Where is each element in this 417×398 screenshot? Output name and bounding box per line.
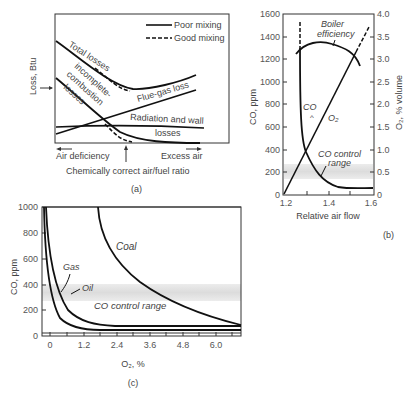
figure: Poor mixing Good mixing Total losses inc… (0, 0, 417, 398)
svg-text:3.0: 3.0 (377, 54, 390, 64)
o2-extrapolation (356, 27, 369, 52)
svg-text:^: ^ (310, 113, 314, 122)
co-control-range-label: CO control range (94, 300, 166, 311)
svg-text:2.4: 2.4 (111, 340, 124, 350)
co-label: CO (303, 102, 317, 112)
svg-text:1000: 1000 (18, 202, 38, 212)
svg-text:600: 600 (265, 122, 280, 132)
svg-text:1000: 1000 (260, 77, 280, 87)
svg-text:4.8: 4.8 (177, 340, 190, 350)
panel-c-caption: (c) (128, 378, 139, 388)
panel-c: 0 200 400 600 800 1000 0 1.2 2.4 3.6 4.8… (9, 202, 241, 388)
y-arrow-head (49, 86, 53, 90)
svg-text:1.5: 1.5 (377, 122, 390, 132)
co-control-label-2: range (328, 158, 351, 168)
stoichiometric-label: Chemically correct air/fuel ratio (66, 166, 190, 176)
legend-good-label: Good mixing (174, 33, 225, 43)
gas-label: Gas (63, 262, 80, 272)
svg-text:600: 600 (23, 254, 38, 264)
radiation-label-2: losses (155, 128, 181, 138)
svg-text:1400: 1400 (260, 32, 280, 42)
o2-label: O₂ (328, 113, 339, 123)
panel-b-ylabel-left: CO, ppm (248, 89, 258, 125)
svg-text:1.2: 1.2 (78, 340, 91, 350)
svg-text:1.0: 1.0 (377, 145, 390, 155)
stoichiometric-arrow (124, 145, 128, 150)
excess-air-label: Excess air (161, 151, 203, 161)
boiler-label-1: Boiler (321, 19, 345, 29)
svg-text:0: 0 (47, 340, 52, 350)
svg-text:0.5: 0.5 (377, 167, 390, 177)
svg-text:200: 200 (23, 305, 38, 315)
panel-a-caption: (a) (131, 184, 142, 194)
legend-poor-label: Poor mixing (174, 20, 222, 30)
panel-c-ylabel: CO, ppm (9, 259, 19, 295)
panel-b-caption: (b) (383, 230, 394, 240)
radiation-label-1: Radiation and wall (130, 112, 204, 126)
svg-text:1.6: 1.6 (365, 198, 378, 208)
svg-text:1600: 1600 (260, 9, 280, 19)
svg-text:200: 200 (265, 167, 280, 177)
svg-text:1.2: 1.2 (280, 198, 293, 208)
panel-b: 0 200 400 600 800 1000 1200 1400 1600 0 … (248, 9, 404, 240)
co-control-band-c (42, 284, 241, 301)
svg-text:1.4: 1.4 (323, 198, 336, 208)
svg-text:0: 0 (33, 331, 38, 341)
svg-text:2.0: 2.0 (377, 99, 390, 109)
incomplete-combustion-good-curve (105, 124, 132, 142)
panel-c-xlabel: O₂, % (121, 359, 145, 369)
svg-text:3.5: 3.5 (377, 32, 390, 42)
panel-a: Poor mixing Good mixing Total losses inc… (28, 14, 229, 194)
svg-text:400: 400 (265, 145, 280, 155)
oil-label: Oil (82, 283, 94, 293)
svg-text:3.6: 3.6 (144, 340, 157, 350)
coal-label: Coal (116, 241, 137, 252)
svg-text:1200: 1200 (260, 54, 280, 64)
svg-text:800: 800 (265, 99, 280, 109)
panel-a-ylabel: Loss, Btu (28, 57, 38, 95)
svg-text:4.0: 4.0 (377, 9, 390, 19)
svg-text:6.0: 6.0 (210, 340, 223, 350)
svg-text:800: 800 (23, 228, 38, 238)
svg-text:2.5: 2.5 (377, 77, 390, 87)
panel-b-ylabel-right: O₂, % volume (394, 75, 404, 130)
svg-text:400: 400 (23, 280, 38, 290)
panel-b-xlabel: Relative air flow (296, 211, 360, 221)
boiler-label-2: efficiency (317, 29, 355, 39)
svg-text:0: 0 (377, 190, 382, 200)
air-deficiency-label: Air deficiency (56, 151, 110, 161)
